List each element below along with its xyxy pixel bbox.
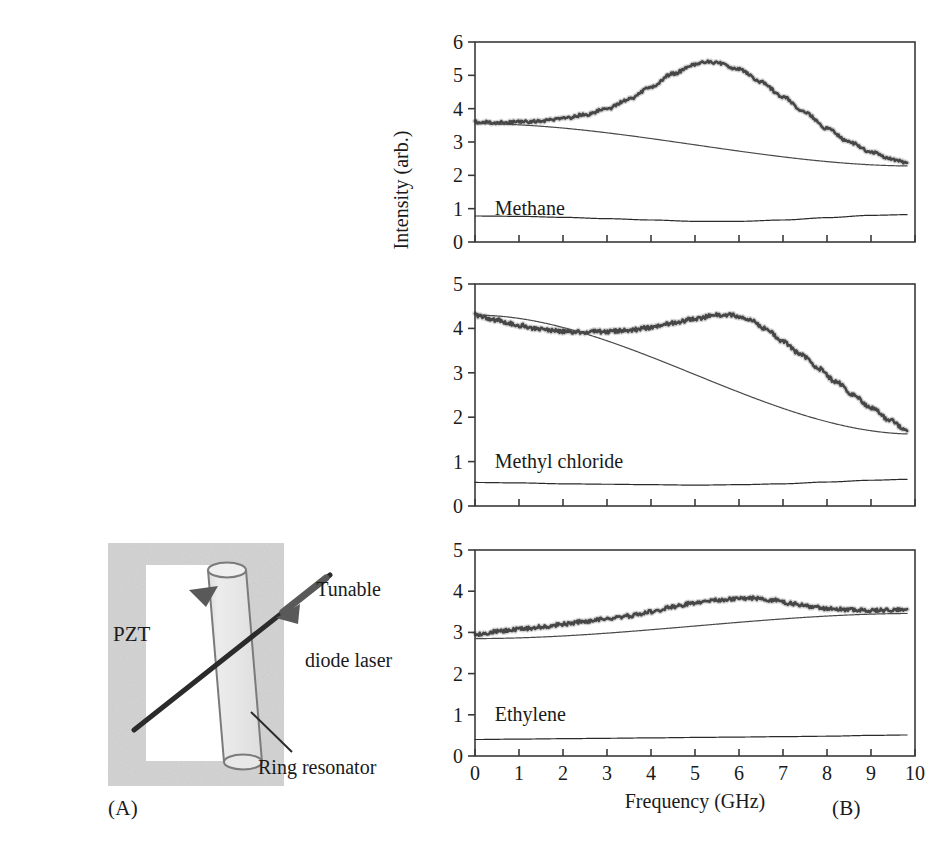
y-tick-label: 0: [453, 495, 463, 517]
y-tick-label: 0: [453, 745, 463, 767]
x-tick-label: 4: [646, 762, 656, 784]
x-tick-label: 6: [734, 762, 744, 784]
ring-resonator-label: Ring resonator: [258, 756, 376, 780]
plot-methyl-chloride: 012345Methyl chloride: [400, 272, 950, 522]
y-tick-label: 3: [453, 621, 463, 643]
y-tick-label: 2: [453, 406, 463, 428]
y-tick-label: 4: [453, 317, 463, 339]
y-tick-label: 4: [453, 580, 463, 602]
x-tick-label: 1: [514, 762, 524, 784]
series-annotation: Methyl chloride: [495, 450, 623, 473]
x-tick-label: 3: [602, 762, 612, 784]
x-tick-label: 7: [778, 762, 788, 784]
y-tick-label: 3: [453, 131, 463, 153]
chart-methane: 0123456Methane: [400, 30, 950, 258]
series-signal: [475, 61, 907, 164]
chart-ethylene: 012345012345678910Ethylene: [400, 538, 950, 790]
plot-ethylene: 012345012345678910Ethylene: [400, 538, 950, 790]
y-tick-label: 3: [453, 362, 463, 384]
panel-b-tag: (B): [832, 796, 861, 821]
x-tick-label: 10: [905, 762, 925, 784]
y-tick-label: 5: [453, 539, 463, 561]
y-tick-label: 2: [453, 663, 463, 685]
y-tick-label: 5: [453, 64, 463, 86]
plot-frame: [475, 550, 915, 756]
x-tick-label: 5: [690, 762, 700, 784]
chart-methyl-chloride: 012345Methyl chloride: [400, 272, 950, 522]
series-reference: [475, 735, 907, 740]
tunable-diode-laser-line1: Tunable: [305, 578, 392, 602]
plot-methane: 0123456Methane: [400, 30, 950, 258]
series-annotation: Methane: [495, 197, 565, 219]
y-tick-label: 2: [453, 164, 463, 186]
y-tick-label: 1: [453, 704, 463, 726]
pzt-label: PZT: [113, 622, 150, 647]
y-tick-label: 6: [453, 31, 463, 53]
x-tick-label: 0: [470, 762, 480, 784]
y-tick-label: 4: [453, 98, 463, 120]
x-tick-label: 2: [558, 762, 568, 784]
tunable-diode-laser-line2: diode laser: [305, 649, 392, 673]
series-annotation: Ethylene: [495, 703, 566, 726]
panel-b-spectra: Intensity (arb.) 0123456Methane 012345Me…: [400, 0, 950, 846]
y-tick-label: 1: [453, 198, 463, 220]
y-tick-label: 5: [453, 273, 463, 295]
series-baseline: [475, 124, 907, 166]
series-reference: [475, 479, 907, 485]
y-tick-label: 0: [453, 231, 463, 253]
figure-root: PZT Tunable diode laser Ring resonator (…: [0, 0, 950, 846]
series-signal: [475, 313, 907, 431]
tunable-diode-laser-label: Tunable diode laser: [305, 531, 392, 720]
panel-a-tag: (A): [108, 796, 138, 821]
y-tick-label: 1: [453, 451, 463, 473]
x-tick-label: 8: [822, 762, 832, 784]
series-signal-band: [475, 61, 907, 164]
x-tick-label: 9: [866, 762, 876, 784]
